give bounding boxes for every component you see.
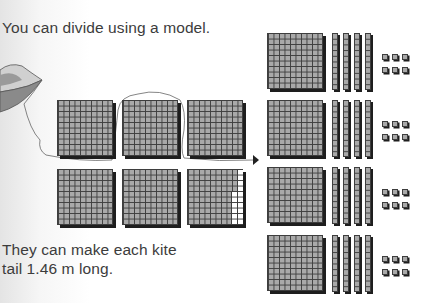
unit-cube: [382, 67, 388, 73]
hundred-flat-partial: [187, 169, 243, 225]
unit-cube: [382, 256, 388, 262]
hundred-flat: [187, 100, 243, 156]
tens-rod: [343, 235, 349, 292]
conclusion-line-2: tail 1.46 m long.: [2, 259, 113, 278]
unit-cube: [392, 67, 398, 73]
hundred-flat: [122, 100, 178, 156]
unit-cube: [382, 54, 388, 60]
unit-cube: [392, 134, 398, 140]
unit-cube: [382, 269, 388, 275]
unit-cube: [392, 269, 398, 275]
hundred-flat: [57, 100, 113, 156]
hundred-flat: [57, 169, 113, 225]
hundred-flat: [267, 100, 323, 156]
hundred-flat: [267, 235, 323, 291]
tens-rod: [365, 167, 371, 224]
tens-rod: [354, 100, 360, 157]
unit-cube: [392, 202, 398, 208]
tens-rod: [354, 33, 360, 90]
unit-cube: [402, 121, 408, 127]
tens-rod: [343, 167, 349, 224]
tens-rod: [365, 100, 371, 157]
unit-cube: [402, 67, 408, 73]
intro-text: You can divide using a model.: [2, 18, 210, 37]
tens-rod: [343, 33, 349, 90]
unit-cube: [382, 202, 388, 208]
arrow-icon: [253, 155, 259, 165]
unit-cube: [392, 54, 398, 60]
hundred-flat: [267, 33, 323, 89]
unit-cube: [382, 121, 388, 127]
unit-cube: [402, 189, 408, 195]
hundred-flat: [267, 167, 323, 223]
unit-cube: [392, 256, 398, 262]
unit-cube: [392, 189, 398, 195]
tens-rod: [354, 235, 360, 292]
tens-rod: [354, 167, 360, 224]
tens-rod: [343, 100, 349, 157]
tens-rod: [332, 33, 338, 90]
removed-cells: [231, 192, 237, 224]
tens-rod: [332, 167, 338, 224]
removed-cells: [237, 170, 243, 224]
unit-cube: [402, 54, 408, 60]
unit-cube: [402, 202, 408, 208]
conclusion-line-1: They can make each kite: [2, 240, 177, 259]
unit-cube: [392, 121, 398, 127]
unit-cube: [382, 134, 388, 140]
unit-cube: [402, 269, 408, 275]
hundred-flat: [122, 169, 178, 225]
tens-rod: [365, 33, 371, 90]
kite-icon: [0, 65, 42, 112]
tens-rod: [332, 235, 338, 292]
unit-cube: [402, 134, 408, 140]
tens-rod: [365, 235, 371, 292]
unit-cube: [382, 189, 388, 195]
unit-cube: [402, 256, 408, 262]
tens-rod: [332, 100, 338, 157]
